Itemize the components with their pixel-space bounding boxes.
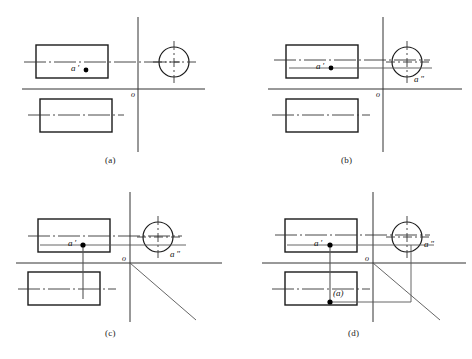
panel-c-point-a-prime (80, 242, 85, 247)
panel-c-label-a-prime: a ′ (68, 238, 76, 248)
panel-c-label-a-double-prime: a ″ (170, 249, 180, 259)
panel-d-point-a (327, 299, 332, 304)
figure-bottom-caption (0, 350, 472, 359)
panel-d-label-a-double-prime: a ″ (424, 239, 434, 249)
panel-a-top-view-rect (40, 99, 112, 132)
panel-a-caption: (a) (105, 155, 116, 165)
panel-a-point-a-prime (84, 68, 89, 73)
panel-a-origin-label: o (131, 90, 135, 99)
panel-c-mitre-line-45deg (130, 263, 196, 320)
panel-b (268, 17, 462, 152)
panel-d-top-view-rect (285, 272, 357, 305)
panel-b-label-a-double-prime: a ″ (414, 74, 424, 84)
panel-b-caption: (b) (341, 155, 352, 165)
panel-d (262, 192, 466, 322)
panel-d-origin-label: o (365, 254, 369, 263)
panel-d-mitre-line-45deg (373, 263, 440, 320)
panel-d-label-a-prime: a ′ (314, 238, 322, 248)
panel-a (22, 17, 205, 152)
panel-d-label-a-top: (a) (333, 288, 344, 298)
projection-figure (0, 0, 472, 359)
panel-c (16, 192, 222, 322)
panel-a-front-view-rect (36, 45, 108, 78)
panel-c-caption: (c) (105, 328, 116, 338)
panel-d-caption: (d) (348, 328, 359, 338)
panel-b-point-a-prime (329, 66, 334, 71)
panel-b-label-a-prime: a ′ (316, 61, 324, 71)
panel-a-label-a-prime: a ′ (71, 63, 79, 73)
panel-c-origin-label: o (122, 254, 126, 263)
panel-b-origin-label: o (376, 90, 380, 99)
panel-b-top-view-rect (286, 99, 358, 132)
panel-d-point-a-prime (327, 242, 332, 247)
panel-c-top-view-rect (28, 272, 100, 305)
